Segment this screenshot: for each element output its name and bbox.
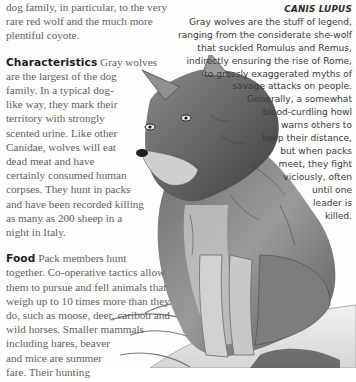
text-line: night in Italy. [6,225,170,239]
text-line: them to pursue and fell animals that [6,280,170,294]
text-line: together. Co-operative tactics allow [6,265,170,279]
caption-line: Generally, a somewhat [122,93,352,106]
text-line: Pack members hunt [38,252,126,264]
caption-line: warns others to [122,119,352,132]
text-line: wild horses. Smaller mammals [6,322,170,336]
text-line: do, such as moose, deer, caribou and [6,308,170,322]
caption-line: meet, they fight [122,158,352,171]
caption-title: CANIS LUPUS [122,3,352,16]
caption-line: blood-curdling howl [122,106,352,119]
caption-line: to grossly exaggerated myths of [122,68,352,81]
caption-line: Gray wolves are the stuff of legend, [122,16,352,29]
caption-line: until one [122,184,352,197]
caption-line: killed. [122,210,352,223]
illustration-caption: CANIS LUPUS Gray wolves are the stuff of… [122,3,352,222]
text-line: and mice are summer [6,351,170,365]
text-line: fare. Their hunting [6,365,170,379]
text-line: weigh up to 10 times more than they [6,294,170,308]
text-line: including hares, beaver [6,336,170,350]
food-paragraph: Food Pack members hunt together. Co-oper… [6,251,170,379]
caption-line: keep their distance, [122,132,352,145]
caption-line: savage attacks on people. [122,80,352,93]
section-heading-food: Food [6,252,35,264]
caption-line: leader is [122,197,352,210]
section-heading-characteristics: Characteristics [6,56,97,68]
caption-line: ranging from the considerate she-wolf [122,29,352,42]
caption-line: but when packs [122,145,352,158]
caption-line: viciously, often [122,171,352,184]
caption-line: that suckled Romulus and Remus, [122,42,352,55]
caption-line: indirectly ensuring the rise of Rome, [122,55,352,68]
